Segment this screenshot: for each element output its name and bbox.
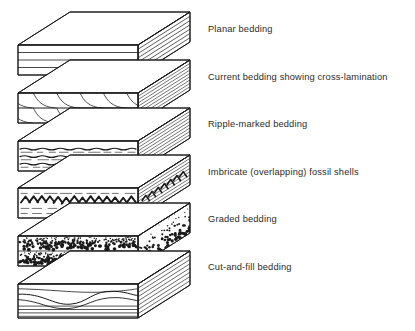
graded-bedding-block-grain <box>80 244 83 247</box>
graded-bedding-block-grain <box>56 237 57 238</box>
graded-bedding-block-grain <box>110 238 111 239</box>
graded-bedding-block-side-grain <box>179 229 182 232</box>
graded-bedding-block-grain <box>90 247 94 251</box>
graded-bedding-block-grain <box>76 245 79 248</box>
graded-bedding-block-grain <box>45 241 47 243</box>
graded-bedding-block-grain <box>113 247 117 251</box>
graded-bedding-block-side-grain <box>166 241 169 244</box>
graded-bedding-block-grain <box>74 237 75 238</box>
graded-bedding-block-grain <box>67 242 69 244</box>
graded-bedding-block-side-grain <box>146 245 148 247</box>
graded-bedding-block-grain <box>66 246 70 250</box>
graded-bedding-block-grain <box>51 240 53 242</box>
graded-bedding-block-grain <box>31 245 34 248</box>
graded-bedding-block-grain <box>30 260 33 263</box>
graded-bedding-block-side-grain <box>174 238 177 241</box>
graded-bedding-block-grain <box>38 257 40 259</box>
graded-bedding-block-grain <box>54 238 55 239</box>
graded-bedding-block-grain <box>43 238 45 240</box>
graded-bedding-block-grain <box>42 245 45 248</box>
graded-bedding-block-grain <box>40 238 42 240</box>
graded-bedding-block-grain <box>43 256 45 258</box>
graded-bedding-block-side-grain <box>168 230 170 232</box>
graded-bedding-block-grain <box>86 242 88 244</box>
graded-bedding-block-grain <box>38 238 40 240</box>
graded-bedding-block-grain <box>70 246 73 249</box>
graded-bedding-block-grain <box>55 255 57 257</box>
graded-bedding-block-grain <box>97 241 99 243</box>
graded-bedding-block-grain <box>121 239 123 241</box>
graded-bedding-block-side-grain <box>183 232 186 235</box>
graded-bedding-block-grain <box>98 245 101 248</box>
graded-bedding-block-side-grain <box>184 212 185 213</box>
graded-bedding-block-grain <box>48 254 50 256</box>
graded-bedding-block-grain <box>52 252 53 253</box>
graded-bedding-block-grain <box>47 259 50 262</box>
graded-bedding-block-grain <box>129 239 131 241</box>
label-cutfill: Cut-and-fill bedding <box>208 262 292 272</box>
cut-and-fill-bedding-block-front-face <box>18 284 138 318</box>
graded-bedding-block-side-grain <box>178 223 180 225</box>
label-ripple: Ripple-marked bedding <box>208 119 307 129</box>
graded-bedding-block-grain <box>123 245 126 248</box>
label-planar: Planar bedding <box>208 24 273 34</box>
graded-bedding-block-side-grain <box>146 248 148 250</box>
graded-bedding-block-grain <box>125 237 126 238</box>
graded-bedding-block-side-grain <box>182 224 184 226</box>
graded-bedding-block-side-grain <box>176 224 178 226</box>
graded-bedding-block-grain <box>82 242 84 244</box>
graded-bedding-block-side-grain <box>184 216 186 218</box>
graded-bedding-block-grain <box>27 241 29 243</box>
graded-bedding-block-grain <box>115 239 117 241</box>
graded-bedding-block-grain <box>43 240 45 242</box>
graded-bedding-block-grain <box>90 242 93 245</box>
graded-bedding-block-grain <box>30 252 31 253</box>
graded-bedding-block-grain <box>53 255 55 257</box>
graded-bedding-block-grain <box>36 252 37 253</box>
graded-bedding-block-side-grain <box>150 234 151 235</box>
graded-bedding-block-grain <box>28 244 31 247</box>
label-imbricate: Imbricate (overlapping) fossil shells <box>208 167 359 177</box>
graded-bedding-block-grain <box>126 240 128 242</box>
graded-bedding-block-grain <box>77 238 78 239</box>
graded-bedding-block-side-grain <box>152 236 154 238</box>
graded-bedding-block-grain <box>131 239 133 241</box>
graded-bedding-block-grain <box>51 237 52 238</box>
graded-bedding-block-grain <box>131 238 132 239</box>
graded-bedding-block-grain <box>96 238 97 239</box>
graded-bedding-block-grain <box>20 260 23 263</box>
graded-bedding-block-grain <box>32 258 35 261</box>
graded-bedding-block-grain <box>105 242 107 244</box>
graded-bedding-block-grain <box>72 239 74 241</box>
graded-bedding-block-side-grain <box>157 244 160 247</box>
graded-bedding-block-side-grain <box>157 247 160 250</box>
graded-bedding-block-grain <box>77 239 79 241</box>
graded-bedding-block-grain <box>73 244 76 247</box>
graded-bedding-block-grain <box>127 237 128 238</box>
graded-bedding-block-grain <box>113 240 115 242</box>
graded-bedding-block-grain <box>120 241 122 243</box>
graded-bedding-block-grain <box>65 237 66 238</box>
graded-bedding-block-grain <box>46 245 49 248</box>
graded-bedding-block-grain <box>133 244 136 247</box>
graded-bedding-block-grain <box>118 238 119 239</box>
graded-bedding-block-grain <box>123 240 125 242</box>
graded-bedding-block-side-grain <box>161 233 163 235</box>
graded-bedding-block-grain <box>113 243 116 246</box>
graded-bedding-block-side-grain <box>154 237 156 239</box>
graded-bedding-block-grain <box>26 237 27 238</box>
graded-bedding-block-grain <box>27 256 29 258</box>
graded-bedding-block-grain <box>62 241 64 243</box>
graded-bedding-block-side-grain <box>168 219 169 220</box>
graded-bedding-block-grain <box>108 243 111 246</box>
graded-bedding-block-side-grain <box>140 235 141 236</box>
graded-bedding-block-grain <box>68 239 70 241</box>
graded-bedding-block-side-grain <box>159 225 160 226</box>
graded-bedding-block-grain <box>50 245 53 248</box>
graded-bedding-block-grain <box>107 240 109 242</box>
graded-bedding-block-grain <box>64 252 65 253</box>
graded-bedding-block-grain <box>94 238 95 239</box>
graded-bedding-block-grain <box>55 246 58 249</box>
graded-bedding-block-grain <box>24 252 25 253</box>
graded-bedding-block-grain <box>38 261 41 264</box>
